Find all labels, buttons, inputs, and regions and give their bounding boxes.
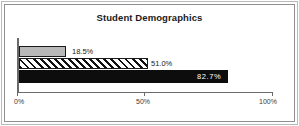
bar-series-2 bbox=[19, 58, 148, 69]
x-axis-line bbox=[17, 92, 273, 93]
plot-area: 0% 50% 100% 18.5% 51.0% 82.7% bbox=[0, 0, 299, 126]
bar-value-label-3: 82.7% bbox=[197, 72, 221, 81]
bar-value-label-2: 51.0% bbox=[151, 59, 172, 68]
x-axis-tick-0 bbox=[17, 92, 18, 96]
x-axis-label-50: 50% bbox=[136, 98, 150, 105]
x-axis-tick-50 bbox=[144, 92, 145, 96]
x-axis-label-0: 0% bbox=[14, 98, 24, 105]
bar-series-1 bbox=[19, 46, 66, 57]
x-axis-tick-100 bbox=[272, 92, 273, 96]
bar-value-label-1: 18.5% bbox=[72, 47, 93, 56]
chart-screenshot: Student Demographics 0% 50% 100% 18.5% 5… bbox=[0, 0, 299, 126]
x-axis-label-100: 100% bbox=[259, 98, 277, 105]
